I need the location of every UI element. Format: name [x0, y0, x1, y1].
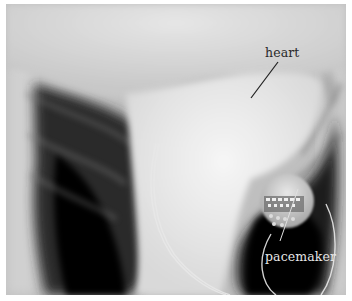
xray-image: heart pacemaker [6, 4, 346, 295]
heart-label: heart [265, 45, 299, 60]
pacemaker-label: pacemaker [265, 249, 336, 264]
